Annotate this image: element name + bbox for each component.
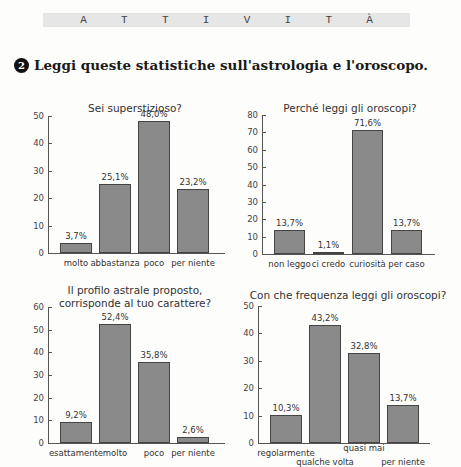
bar-per-niente: [177, 437, 209, 443]
y-tick: [262, 254, 266, 255]
y-tick-label: 40: [234, 328, 254, 338]
y-tick: [258, 306, 262, 307]
y-tick: [48, 143, 52, 144]
y-tick-label: 0: [234, 438, 254, 448]
y-tick: [48, 375, 52, 376]
y-tick: [258, 361, 262, 362]
y-tick-label: 40: [24, 138, 44, 148]
bar-value-label: 9,2%: [56, 410, 96, 420]
y-tick: [262, 219, 266, 220]
y-tick-label: 10: [234, 411, 254, 421]
y-tick: [262, 150, 266, 151]
y-tick-label: 40: [24, 347, 44, 357]
x-axis: [262, 254, 435, 255]
bar-molto: [60, 243, 92, 253]
y-tick-label: 30: [24, 166, 44, 176]
category-label: per niente: [158, 258, 228, 268]
y-tick-label: 20: [24, 193, 44, 203]
banner-letter: T: [325, 14, 332, 26]
bar-curiosità: [352, 130, 383, 254]
y-tick: [48, 307, 52, 308]
bar-value-label: 1,1%: [309, 240, 349, 250]
bar-value-label: 13,7%: [270, 218, 310, 228]
bar-value-label: 13,7%: [387, 218, 427, 228]
banner-letter: T: [121, 14, 128, 26]
y-tick: [258, 416, 262, 417]
chart-title: Perché leggi gli oroscopi?: [230, 102, 461, 115]
y-tick-label: 80: [238, 110, 258, 120]
y-tick: [262, 237, 266, 238]
y-tick: [258, 443, 262, 444]
y-tick: [48, 253, 52, 254]
y-tick-label: 20: [24, 393, 44, 403]
bar-value-label: 23,2%: [173, 177, 213, 187]
bar-value-label: 71,6%: [348, 118, 388, 128]
exercise-number-badge: 2: [14, 58, 29, 73]
bar-value-label: 25,1%: [95, 172, 135, 182]
bar-qualche-volta: [309, 325, 341, 443]
bar-value-label: 3,7%: [56, 231, 96, 241]
bar-value-label: 48,0%: [134, 109, 174, 119]
bar-esattamente: [60, 422, 92, 443]
bar-per-niente: [387, 405, 419, 443]
y-tick-label: 30: [24, 370, 44, 380]
y-tick: [258, 333, 262, 334]
y-tick-label: 0: [238, 249, 258, 259]
y-tick-label: 50: [234, 301, 254, 311]
exercise-heading: 2 Leggi queste statistiche sull'astrolog…: [14, 57, 428, 73]
y-tick-label: 60: [238, 145, 258, 155]
y-tick: [262, 185, 266, 186]
chart-title: Con che frequenza leggi gli oroscopi?: [228, 289, 461, 302]
bar-value-label: 10,3%: [266, 403, 306, 413]
y-tick-label: 50: [24, 111, 44, 121]
bar-regolarmente: [270, 415, 302, 443]
y-tick: [48, 330, 52, 331]
y-tick: [48, 420, 52, 421]
bar-value-label: 52,4%: [95, 312, 135, 322]
section-banner: A T T I V I T À: [43, 13, 410, 27]
banner-letter: A: [80, 14, 87, 26]
category-label: per niente: [368, 457, 438, 467]
banner-letter: T: [162, 14, 169, 26]
y-tick-label: 20: [238, 214, 258, 224]
x-axis: [48, 253, 225, 254]
bar-poco: [138, 362, 170, 443]
y-tick: [262, 167, 266, 168]
y-tick: [48, 198, 52, 199]
y-tick: [48, 116, 52, 117]
bar-value-label: 43,2%: [305, 313, 345, 323]
y-tick-label: 20: [234, 383, 254, 393]
y-tick: [258, 388, 262, 389]
y-tick: [262, 115, 266, 116]
category-label: quasi mai: [329, 443, 399, 453]
bar-per-caso: [391, 230, 422, 254]
y-axis: [48, 116, 49, 253]
y-tick-label: 0: [24, 248, 44, 258]
y-tick: [262, 202, 266, 203]
bar-molto: [99, 324, 131, 443]
y-tick: [48, 352, 52, 353]
bar-non-leggo: [274, 230, 305, 254]
bar-poco: [138, 121, 170, 253]
bar-ci-credo: [313, 252, 344, 254]
banner-letter: À: [366, 14, 373, 26]
y-tick-label: 50: [238, 162, 258, 172]
banner-letter: I: [203, 14, 210, 26]
bar-value-label: 35,8%: [134, 350, 174, 360]
bar-abbastanza: [99, 184, 131, 253]
exercise-instruction: Leggi queste statistiche sull'astrologia…: [34, 57, 428, 73]
chart-title: Il profilo astrale proposto,: [15, 284, 255, 297]
y-tick: [262, 132, 266, 133]
y-tick-label: 0: [24, 438, 44, 448]
bar-value-label: 32,8%: [344, 341, 384, 351]
banner-letter: V: [244, 14, 251, 26]
bar-value-label: 13,7%: [383, 393, 423, 403]
bar-per-niente: [177, 189, 209, 253]
bar-value-label: 2,6%: [173, 425, 213, 435]
y-tick-label: 10: [238, 232, 258, 242]
y-tick-label: 70: [238, 127, 258, 137]
y-tick: [48, 171, 52, 172]
chart-title: corrisponde al tuo carattere?: [15, 297, 255, 310]
category-label: per caso: [372, 259, 442, 269]
y-tick-label: 30: [234, 356, 254, 366]
